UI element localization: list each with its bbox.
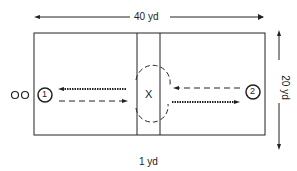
center-marker: X (145, 89, 152, 100)
center-zone-circle (136, 65, 170, 122)
height-label: 20 yd (280, 74, 291, 100)
player-1-label: 1 (42, 89, 47, 100)
waiting-player-icon (22, 92, 29, 99)
center-width-label: 1 yd (139, 156, 158, 167)
field-boundary (34, 33, 265, 135)
width-label: 40 yd (132, 11, 160, 22)
waiting-player-icon (12, 92, 19, 99)
player-2-label: 2 (250, 86, 255, 97)
drill-diagram: 40 yd 20 yd 1 yd X 1 2 (0, 0, 297, 171)
